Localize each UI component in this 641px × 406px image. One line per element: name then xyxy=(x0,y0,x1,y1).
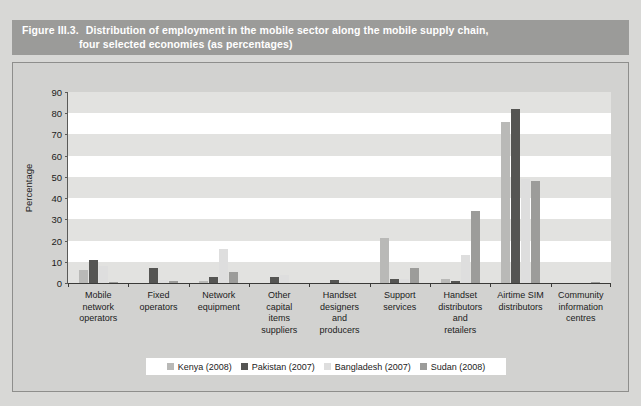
y-axis-ticks: 0102030405060708090 xyxy=(36,86,66,286)
y-axis-title: Percentage xyxy=(20,90,36,285)
x-tick-label-line: suppliers xyxy=(249,325,309,337)
x-tick-label: Handsetdesignersandproducers xyxy=(309,290,369,336)
legend-item[interactable]: Bangladesh (2007) xyxy=(324,362,411,372)
x-tick-mark xyxy=(370,283,371,287)
figure-title-banner: Figure III.3.Distribution of employment … xyxy=(12,20,629,55)
x-tick-mark xyxy=(610,283,611,287)
x-tick-label-line: and xyxy=(309,313,369,325)
bar xyxy=(280,275,289,283)
figure-title-text-2: four selected economies (as percentages) xyxy=(79,38,293,50)
bar xyxy=(531,181,540,283)
x-tick-label: Mobilenetworkoperators xyxy=(68,290,128,325)
legend-label: Kenya (2008) xyxy=(178,362,232,372)
x-tick-label-line: Mobile xyxy=(68,290,128,302)
x-tick-label-line: centres xyxy=(551,313,611,325)
x-tick-label-line: Handset xyxy=(430,290,490,302)
x-tick-mark xyxy=(68,283,69,287)
x-tick-mark xyxy=(128,283,129,287)
y-tick-label: 40 xyxy=(38,193,62,204)
x-tick-label-line: Airtime SIM xyxy=(490,290,550,302)
bar xyxy=(521,179,530,283)
bar xyxy=(471,211,480,283)
x-axis-labels: MobilenetworkoperatorsFixedoperatorsNetw… xyxy=(68,290,611,350)
x-tick-label: Handsetdistributorsandretailers xyxy=(430,290,490,336)
x-tick-label-line: capital xyxy=(249,302,309,314)
x-tick-label-line: retailers xyxy=(430,325,490,337)
x-tick-label-line: operators xyxy=(68,313,128,325)
legend-label: Bangladesh (2007) xyxy=(335,362,411,372)
bar xyxy=(149,268,158,283)
x-tick-label-line: Handset xyxy=(309,290,369,302)
y-tick-label: 0 xyxy=(38,278,62,289)
bar-group xyxy=(128,92,188,283)
bar xyxy=(99,266,108,283)
x-tick-label-line: Fixed xyxy=(128,290,188,302)
figure-number: Figure III.3. xyxy=(22,24,79,36)
bar xyxy=(501,122,510,283)
bar-group xyxy=(551,92,611,283)
legend-swatch-icon xyxy=(167,363,174,370)
x-tick-label-line: items xyxy=(249,313,309,325)
figure-title-line-2: four selected economies (as percentages) xyxy=(22,38,629,52)
y-tick-label: 70 xyxy=(38,129,62,140)
x-tick-label-line: information xyxy=(551,302,611,314)
bar xyxy=(89,260,98,283)
x-tick-label-line: Support xyxy=(370,290,430,302)
x-tick-label-line: services xyxy=(370,302,430,314)
bar xyxy=(380,238,389,283)
x-tick-label-line: Network xyxy=(189,290,249,302)
x-tick-label: Airtime SIMdistributors xyxy=(490,290,550,313)
legend-item[interactable]: Pakistan (2007) xyxy=(241,362,315,372)
bar xyxy=(410,268,419,283)
x-tick-label: Fixedoperators xyxy=(128,290,188,313)
x-tick-label-line: equipment xyxy=(189,302,249,314)
x-tick-label: Supportservices xyxy=(370,290,430,313)
legend-label: Pakistan (2007) xyxy=(252,362,315,372)
figure-title-text-1: Distribution of employment in the mobile… xyxy=(86,24,489,36)
x-tick-label-line: network xyxy=(68,302,128,314)
bar-group xyxy=(68,92,128,283)
bar xyxy=(229,272,238,283)
x-tick-label-line: distributors xyxy=(490,302,550,314)
bar-group xyxy=(490,92,550,283)
x-tick-mark xyxy=(551,283,552,287)
y-tick-label: 50 xyxy=(38,171,62,182)
bar xyxy=(461,255,470,283)
bar-group xyxy=(249,92,309,283)
x-axis-ticks xyxy=(68,283,611,287)
legend-item[interactable]: Sudan (2008) xyxy=(420,362,486,372)
x-tick-mark xyxy=(490,283,491,287)
y-tick-label: 80 xyxy=(38,108,62,119)
legend-swatch-icon xyxy=(324,363,331,370)
x-tick-label-line: designers xyxy=(309,302,369,314)
x-tick-label: Othercapitalitemssuppliers xyxy=(249,290,309,336)
bars-layer xyxy=(68,92,611,283)
y-tick-label: 90 xyxy=(38,87,62,98)
x-tick-mark xyxy=(249,283,250,287)
x-tick-label: Networkequipment xyxy=(189,290,249,313)
x-tick-label-line: operators xyxy=(128,302,188,314)
legend-label: Sudan (2008) xyxy=(431,362,486,372)
x-tick-label-line: Other xyxy=(249,290,309,302)
legend-item[interactable]: Kenya (2008) xyxy=(167,362,232,372)
y-tick-label: 60 xyxy=(38,150,62,161)
bar xyxy=(511,109,520,283)
legend-swatch-icon xyxy=(420,363,427,370)
x-tick-label-line: Community xyxy=(551,290,611,302)
y-axis-title-label: Percentage xyxy=(23,163,34,212)
bar-group xyxy=(189,92,249,283)
bar-group xyxy=(430,92,490,283)
figure-title-line-1: Figure III.3.Distribution of employment … xyxy=(22,24,629,38)
y-tick-label: 10 xyxy=(38,256,62,267)
x-tick-mark xyxy=(430,283,431,287)
x-tick-label: Communityinformationcentres xyxy=(551,290,611,325)
x-tick-label-line: producers xyxy=(309,325,369,337)
bar xyxy=(219,249,228,283)
y-tick-label: 30 xyxy=(38,214,62,225)
chart-legend: Kenya (2008)Pakistan (2007)Bangladesh (2… xyxy=(146,358,506,375)
bar-group xyxy=(309,92,369,283)
y-tick-label: 20 xyxy=(38,235,62,246)
x-tick-mark xyxy=(309,283,310,287)
x-tick-mark xyxy=(189,283,190,287)
legend-swatch-icon xyxy=(241,363,248,370)
